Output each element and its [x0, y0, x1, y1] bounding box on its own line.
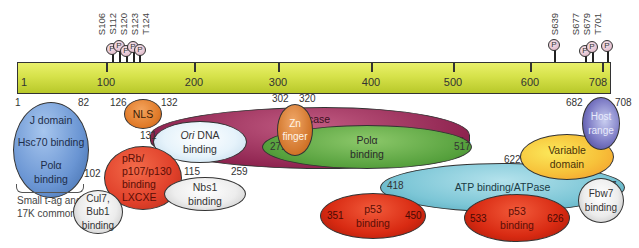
phosphosite-label: S112	[107, 13, 118, 34]
phosphosite-label: T701	[592, 13, 603, 35]
phosphosite-label: S120	[118, 13, 129, 35]
tick-label: 400	[362, 76, 380, 88]
zn-label-2: finger	[282, 130, 307, 144]
tick-300	[278, 63, 280, 72]
ori-label-2: binding	[183, 142, 217, 156]
prb-label-2: p107/p130	[122, 165, 172, 178]
ori-start: 131	[140, 130, 157, 141]
p53a-label-2: binding	[356, 216, 390, 230]
ori-rest: DNA	[194, 129, 219, 141]
prb-label-3: binding	[122, 178, 156, 191]
phosphosite-label: S639	[549, 13, 560, 35]
host-label-2: range	[588, 124, 614, 138]
nbs1-binding-domain: Nbs1 binding	[164, 177, 246, 211]
small-tag-note-line2: 17K common	[17, 208, 81, 221]
atp-label: ATP binding/ATPase	[455, 180, 551, 194]
tick-600	[530, 63, 532, 72]
tick-label: 200	[185, 76, 203, 88]
p53b-start: 533	[470, 213, 487, 224]
small-tag-note: Small t-ag and 17K common	[17, 195, 81, 220]
variable-label-1: Variable	[548, 143, 586, 157]
j-domain-end: 82	[78, 97, 89, 108]
tick-label: 500	[444, 76, 462, 88]
hsc70-binding-label: Hsc70 binding	[18, 136, 85, 150]
nls-end: 132	[161, 97, 178, 108]
fbw7-label-1: Fbw7	[589, 187, 613, 201]
phosphosite-label: S123	[129, 13, 140, 35]
zn-label-1: Zn	[289, 117, 301, 131]
host-label-1: Host	[591, 110, 612, 124]
fbw7-binding-domain: Fbw7 binding	[578, 178, 624, 223]
tick-label-end: 708	[589, 76, 607, 88]
pola-label-1: Polα	[356, 133, 377, 147]
cul7-label-2: binding	[82, 219, 114, 233]
phospho-icon: P	[586, 41, 598, 53]
nbs1-label-1: Nbs1	[193, 180, 218, 194]
j-domain-start: 1	[15, 97, 21, 108]
zn-finger-domain: Zn finger	[277, 104, 313, 156]
zn-start: 302	[272, 93, 289, 104]
variable-label-2: domain	[550, 157, 584, 171]
tick-400	[371, 63, 373, 72]
tick-label: 100	[97, 76, 115, 88]
p53a-start: 351	[327, 210, 344, 221]
tick-708	[602, 63, 604, 72]
phospho-stem	[554, 50, 556, 62]
atp-start: 418	[387, 180, 404, 191]
nls-domain: NLS	[124, 99, 162, 129]
p53b-end: 626	[547, 213, 564, 224]
phospho-icon: P	[601, 40, 613, 52]
ori-italic: Ori	[180, 129, 194, 141]
variable-start: 622	[504, 154, 521, 165]
tick-500	[453, 63, 455, 72]
phosphosite-label: T124	[140, 13, 151, 35]
zn-end: 320	[299, 93, 316, 104]
host-end: 708	[615, 97, 632, 108]
prb-start-102: 102	[84, 168, 101, 179]
phospho-icon: P	[548, 39, 560, 51]
phosphosite-label: S679	[581, 13, 592, 35]
fbw7-label-2: binding	[585, 201, 617, 215]
phospho-icon: P	[134, 44, 146, 56]
cul7-label-1: Cul7, Bub1	[74, 192, 122, 219]
prb-label-4: LXCXE	[122, 191, 156, 204]
pola-label-2: binding	[350, 147, 384, 161]
prb-end: 115	[184, 166, 200, 177]
tick-label: 600	[521, 76, 539, 88]
tick-label: 300	[269, 76, 287, 88]
ori-end: 259	[231, 166, 248, 177]
p53a-label-1: p53	[364, 202, 382, 216]
protein-sequence-bar: 1 100 200 300 400 500 600 708	[17, 62, 611, 94]
phosphosite-label: S677	[570, 13, 581, 35]
prb-label-1: pRb/	[122, 152, 144, 165]
ori-label: Ori DNA	[180, 128, 219, 142]
cul7-bub1-binding-domain: Cul7, Bub1 binding	[73, 190, 123, 234]
p53a-end: 450	[405, 210, 422, 221]
tick-100	[106, 63, 108, 72]
j-domain-label: J domain	[30, 114, 73, 128]
small-tag-note-line1: Small t-ag and	[17, 195, 81, 208]
tick-200	[194, 63, 196, 72]
host-start: 682	[566, 97, 583, 108]
pola-label: Polα	[40, 159, 61, 173]
phosphosite-label: S106	[96, 13, 107, 35]
p53b-label-1: p53	[508, 204, 526, 218]
nls-label: NLS	[133, 107, 153, 121]
pola-end: 517	[454, 141, 471, 152]
nls-start: 126	[110, 97, 127, 108]
tick-label-start: 1	[21, 76, 27, 88]
nbs1-label-2: binding	[188, 194, 222, 208]
p53b-label-2: binding	[500, 218, 534, 232]
